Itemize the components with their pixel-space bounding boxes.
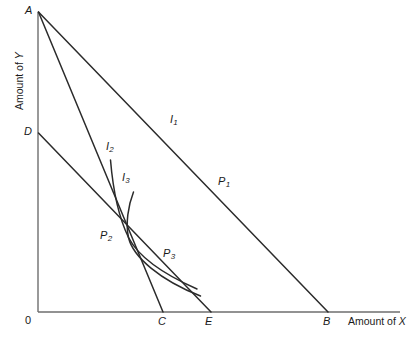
point-label-p2-subscript: 2 [108, 234, 112, 243]
point-label-e-text: E [205, 315, 212, 327]
point-label-p2: P2 [100, 230, 112, 243]
point-label-c: C [158, 316, 166, 327]
point-label-p3-subscript: 3 [171, 252, 175, 261]
point-label-p3-text: P [163, 247, 170, 259]
point-label-a-text: A [25, 4, 32, 16]
point-label-d-text: D [24, 125, 32, 137]
curve-label-i3-subscript: 3 [125, 176, 129, 185]
curve-label-i1: I1 [170, 114, 178, 127]
budget-line-de [39, 133, 212, 312]
point-label-p1-subscript: 1 [226, 180, 230, 189]
point-label-b-text: B [323, 315, 330, 327]
origin-label-text: 0 [25, 314, 31, 326]
point-label-b: B [323, 316, 330, 327]
point-label-d: D [24, 126, 32, 137]
point-label-p1-text: P [218, 175, 225, 187]
y-axis-title-variable: Y [13, 52, 25, 59]
y-axis-title: Amount of Y [14, 52, 25, 110]
point-label-p1: P1 [218, 176, 230, 189]
curve-label-i3: I3 [122, 172, 130, 185]
point-label-a: A [25, 5, 32, 16]
diagram-canvas [0, 0, 415, 337]
point-label-p3: P3 [163, 248, 175, 261]
point-label-p2-text: P [100, 229, 107, 241]
y-axis-title-prefix: Amount of [13, 59, 25, 110]
point-label-e: E [205, 316, 212, 327]
curve-label-i2: I2 [106, 141, 114, 154]
x-axis-title: Amount of X [348, 316, 406, 327]
budget-line-ac [39, 12, 164, 312]
point-label-c-text: C [158, 315, 166, 327]
budget-line-ab [39, 12, 329, 312]
origin-label: 0 [25, 315, 31, 326]
x-axis-title-prefix: Amount of [348, 315, 399, 327]
curve-label-i1-subscript: 1 [173, 118, 177, 127]
curve-label-i2-subscript: 2 [109, 145, 113, 154]
x-axis-title-variable: X [399, 315, 406, 327]
indifference-curve-i3 [127, 192, 200, 296]
economics-diagram: A D 0 C E B I1 I2 I3 P1 P2 P3 Amount of … [0, 0, 415, 337]
